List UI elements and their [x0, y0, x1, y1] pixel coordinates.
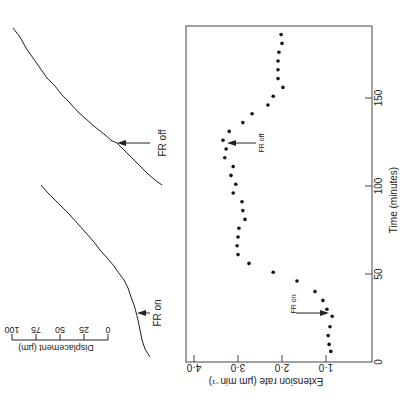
data-point: [237, 226, 241, 230]
displacement-panel: [13, 28, 162, 357]
plot-fr-off-label: FR off: [258, 133, 265, 152]
data-point: [271, 94, 275, 98]
trace-fr-off-label: FR off: [157, 129, 168, 156]
upper-trace: [13, 28, 162, 185]
data-point: [276, 68, 280, 72]
data-point: [231, 191, 235, 195]
data-point: [328, 325, 332, 329]
data-point: [223, 156, 227, 160]
data-point: [276, 77, 280, 81]
data-point: [241, 121, 245, 125]
sb-label: Displacement (µm): [18, 343, 94, 353]
sb-tick-25: 25: [79, 325, 89, 335]
data-point: [241, 209, 245, 213]
figure: FR off FR on 100 75 50 25 0 Displacement…: [0, 0, 404, 398]
y-tick-2: 2·0: [274, 362, 289, 373]
data-point: [247, 262, 251, 266]
data-point: [236, 253, 240, 257]
data-point: [276, 59, 280, 63]
data-point: [224, 147, 228, 151]
data-point: [229, 174, 233, 178]
data-point: [235, 244, 239, 248]
x-tick-150: 150: [373, 89, 384, 106]
data-point: [326, 334, 330, 338]
sb-tick-100: 100: [4, 325, 19, 335]
plot-fr-on-label: FR on: [290, 294, 297, 313]
rate-panel: 0 50 100 150 Time (minutes) 4·0 3·0 2·0 …: [186, 26, 399, 387]
y-tick-1: 1·0: [318, 362, 333, 373]
y-tick-3: 3·0: [230, 362, 245, 373]
data-point: [329, 350, 333, 354]
data-point: [250, 112, 254, 116]
data-point: [280, 42, 284, 46]
data-point: [243, 218, 247, 222]
data-point: [277, 50, 281, 54]
data-point: [327, 343, 331, 347]
data-point: [281, 86, 285, 90]
data-point: [231, 165, 235, 169]
x-tick-50: 50: [373, 268, 384, 280]
data-point: [279, 33, 283, 37]
sb-tick-0: 0: [105, 325, 110, 335]
data-point: [325, 307, 329, 311]
x-tick-0: 0: [373, 359, 384, 365]
x-axis-label: Time (minutes): [388, 167, 399, 233]
y-tick-4: 4·0: [186, 362, 201, 373]
data-points: [221, 33, 334, 353]
data-point: [234, 182, 238, 186]
trace-fr-on-label: FR on: [152, 299, 163, 326]
plot-frame: [186, 26, 372, 362]
data-point: [266, 103, 270, 107]
data-point: [271, 270, 275, 274]
data-point: [240, 200, 244, 204]
data-point: [236, 235, 240, 239]
data-point: [321, 299, 325, 303]
x-tick-100: 100: [373, 177, 384, 194]
displacement-scale-bar: 100 75 50 25 0 Displacement (µm): [4, 325, 110, 353]
data-point: [221, 138, 225, 142]
y-axis-label: Extension rate (µm min⁻¹): [209, 376, 324, 387]
data-point: [227, 130, 231, 134]
figure-svg: FR off FR on 100 75 50 25 0 Displacement…: [0, 0, 404, 398]
sb-tick-75: 75: [31, 325, 41, 335]
data-point: [313, 290, 317, 294]
data-point: [295, 279, 299, 283]
sb-tick-50: 50: [55, 325, 65, 335]
data-point: [330, 314, 334, 318]
